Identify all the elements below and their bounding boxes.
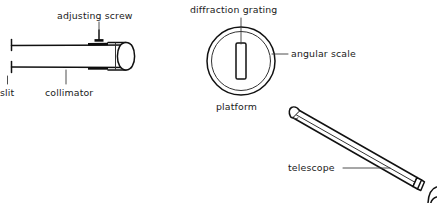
observer-eye-arc-lower <box>431 197 437 203</box>
diagram-canvas: adjusting screw slit collimator diffract… <box>0 0 437 203</box>
collimator-top-rail <box>12 45 132 46</box>
telescope-label: telescope <box>288 162 335 173</box>
platform-label: platform <box>216 101 257 112</box>
slit-label: slit <box>0 87 15 98</box>
collimator-group: adjusting screw slit collimator <box>0 10 135 98</box>
diffraction-grating-label: diffraction grating <box>190 4 277 15</box>
collimator-barrel <box>88 43 135 71</box>
angular-scale-label: angular scale <box>291 48 356 59</box>
adjusting-screw <box>95 30 104 40</box>
collimator-tube <box>12 45 132 68</box>
platform-group: diffraction grating angular scale platfo… <box>190 4 356 112</box>
collimator-bottom-rail <box>12 67 132 68</box>
collimator-lens-ellipse <box>117 43 134 71</box>
adjusting-screw-label: adjusting screw <box>57 10 133 21</box>
telescope-group: telescope <box>288 107 437 203</box>
diffraction-grating-rect <box>236 43 246 79</box>
collimator-label: collimator <box>45 87 93 98</box>
spectrometer-diagram: adjusting screw slit collimator diffract… <box>0 0 437 203</box>
